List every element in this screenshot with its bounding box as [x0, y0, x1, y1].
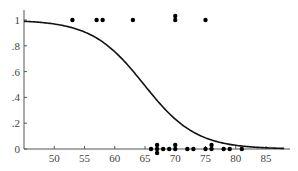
- data-point: [161, 147, 165, 151]
- data-point: [167, 147, 171, 151]
- logistic-regression-chart: 0.2.4.6.815055606570758085: [0, 0, 298, 171]
- data-point: [94, 18, 98, 22]
- x-tick-label: 65: [140, 152, 152, 164]
- data-point: [228, 147, 232, 151]
- data-point: [173, 14, 177, 18]
- data-point: [70, 18, 74, 22]
- data-point: [173, 147, 177, 151]
- data-point: [203, 147, 207, 151]
- axes: 0.2.4.6.815055606570758085: [12, 10, 290, 164]
- data-point: [155, 151, 159, 155]
- data-point: [131, 18, 135, 22]
- y-tick-label: 1: [15, 14, 21, 26]
- y-tick-label: .8: [12, 40, 21, 52]
- x-tick-label: 75: [200, 152, 212, 164]
- data-point: [173, 18, 177, 22]
- y-tick-label: 0: [15, 143, 21, 155]
- y-tick-label: .4: [12, 91, 21, 103]
- data-point: [191, 147, 195, 151]
- x-tick-label: 85: [261, 152, 273, 164]
- fitted-curve: [24, 21, 284, 148]
- y-tick-label: .6: [12, 66, 21, 78]
- data-point: [240, 147, 244, 151]
- y-tick-label: .2: [12, 117, 20, 129]
- data-point: [209, 147, 213, 151]
- x-tick-label: 55: [79, 152, 91, 164]
- logistic-curve: [24, 21, 284, 148]
- data-points: [70, 14, 244, 155]
- data-point: [209, 143, 213, 147]
- data-point: [149, 147, 153, 151]
- data-point: [173, 143, 177, 147]
- data-point: [185, 147, 189, 151]
- x-tick-label: 80: [230, 152, 242, 164]
- data-point: [100, 18, 104, 22]
- data-point: [155, 143, 159, 147]
- data-point: [155, 147, 159, 151]
- data-point: [203, 18, 207, 22]
- x-tick-label: 70: [170, 152, 182, 164]
- data-point: [221, 147, 225, 151]
- x-tick-label: 60: [109, 152, 121, 164]
- x-tick-label: 50: [49, 152, 61, 164]
